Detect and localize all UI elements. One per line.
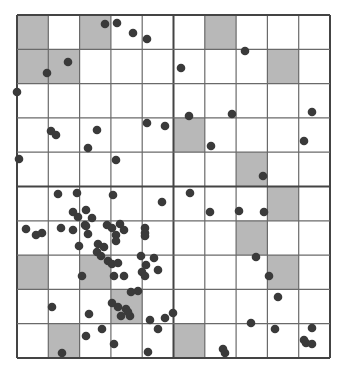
data-point	[252, 253, 261, 262]
data-point	[78, 272, 87, 281]
data-point	[110, 340, 119, 349]
data-point	[271, 325, 280, 334]
data-point	[308, 340, 317, 349]
shaded-cell	[236, 152, 267, 186]
data-point	[97, 252, 106, 261]
data-point	[98, 325, 107, 334]
data-point	[112, 237, 121, 246]
shaded-cell	[236, 221, 267, 255]
data-point	[84, 230, 93, 239]
data-point	[100, 243, 109, 252]
data-point	[161, 122, 170, 131]
data-point	[54, 190, 63, 199]
data-point	[177, 64, 186, 73]
data-point	[52, 131, 61, 140]
data-point	[73, 189, 82, 198]
data-point	[48, 303, 57, 312]
data-point	[143, 119, 152, 128]
shaded-cell	[205, 15, 236, 49]
data-point	[82, 332, 91, 341]
shaded-cell	[17, 255, 48, 289]
data-point	[144, 348, 153, 357]
data-point	[247, 319, 256, 328]
data-point	[75, 242, 84, 251]
data-point	[259, 172, 268, 181]
data-point	[112, 156, 121, 165]
shaded-cell	[17, 49, 48, 83]
data-point	[82, 222, 91, 231]
data-point	[58, 349, 67, 358]
data-point	[13, 88, 22, 97]
data-point	[260, 208, 269, 217]
data-point	[141, 272, 150, 281]
shaded-cell	[267, 49, 298, 83]
data-point	[235, 207, 244, 216]
data-point	[206, 208, 215, 217]
data-point	[186, 189, 195, 198]
data-point	[185, 112, 194, 121]
data-point	[207, 142, 216, 151]
data-point	[120, 272, 129, 281]
data-point	[85, 310, 94, 319]
data-point	[22, 225, 31, 234]
data-point	[38, 229, 47, 238]
data-point	[84, 144, 93, 153]
data-point	[129, 29, 138, 38]
data-point	[143, 35, 152, 44]
shaded-cell	[48, 49, 79, 83]
data-point	[221, 349, 230, 358]
data-point	[154, 325, 163, 334]
data-point	[101, 20, 110, 29]
data-point	[274, 293, 283, 302]
data-point	[124, 308, 133, 317]
data-point	[154, 266, 163, 275]
data-point	[161, 314, 170, 323]
data-point	[308, 324, 317, 333]
data-point	[43, 69, 52, 78]
data-point	[228, 110, 237, 119]
shaded-cell	[174, 118, 205, 152]
data-point	[169, 309, 178, 318]
data-point	[69, 226, 78, 235]
data-point	[308, 108, 317, 117]
data-point	[57, 224, 66, 233]
data-point	[146, 316, 155, 325]
data-point	[114, 303, 123, 312]
data-point	[113, 19, 122, 28]
shaded-cell	[267, 255, 298, 289]
data-point	[241, 47, 250, 56]
data-point	[93, 126, 102, 135]
data-point	[141, 232, 150, 241]
data-point	[88, 214, 97, 223]
shaded-cell	[17, 15, 48, 49]
data-point	[15, 155, 24, 164]
shaded-cell	[267, 187, 298, 221]
shaded-cell	[174, 324, 205, 358]
data-point	[74, 213, 83, 222]
data-point	[158, 198, 167, 207]
data-point	[137, 252, 146, 261]
data-point	[300, 137, 309, 146]
data-point	[265, 272, 274, 281]
data-point	[82, 206, 91, 215]
data-point	[110, 272, 119, 281]
quadrat-grid-figure	[0, 0, 345, 375]
data-point	[64, 58, 73, 67]
data-point	[120, 226, 129, 235]
data-point	[150, 254, 159, 263]
data-point	[127, 288, 136, 297]
data-point	[114, 259, 123, 268]
data-point	[109, 191, 118, 200]
